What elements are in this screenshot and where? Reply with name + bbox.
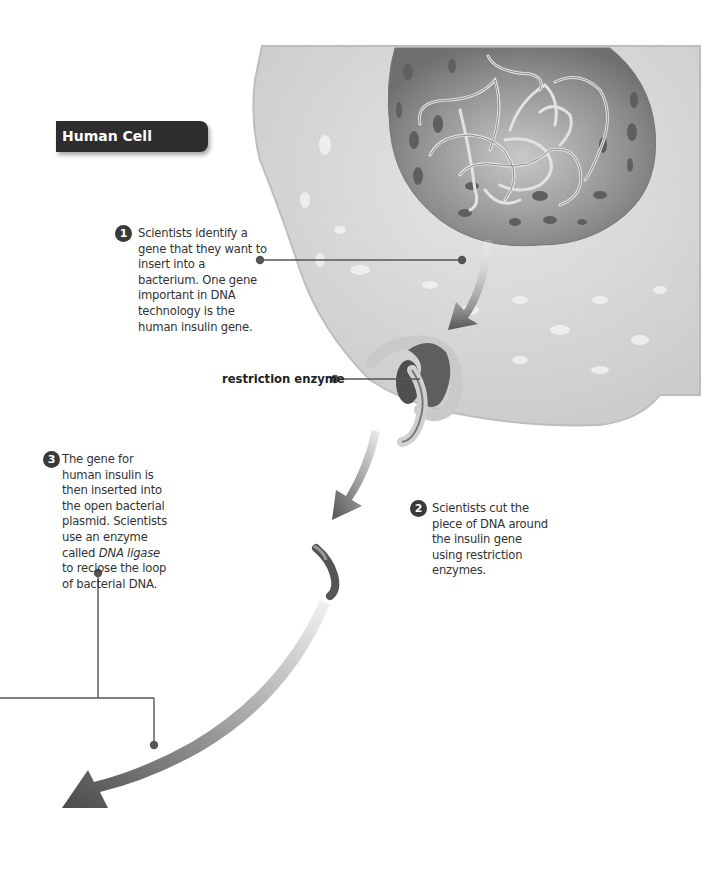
step-2-badge: 2 xyxy=(410,500,427,517)
step-3-text: The gene for human insulin is then inser… xyxy=(62,452,174,592)
step-3-text-italic: DNA ligase xyxy=(99,546,160,560)
step-3-text-after: to reclose the loop of bacterial DNA. xyxy=(62,561,166,591)
restriction-enzyme-label: restriction enzyme xyxy=(222,372,345,386)
step-2-text: Scientists cut the piece of DNA around t… xyxy=(432,501,552,579)
step-3-badge: 3 xyxy=(43,451,60,468)
dna-fragment-illustration xyxy=(314,546,335,596)
step-3-text-before: The gene for human insulin is then inser… xyxy=(62,452,167,560)
step-1-badge: 1 xyxy=(115,225,132,242)
step-1-text: Scientists identify a gene that they wan… xyxy=(138,226,268,335)
arrow-enzyme-to-fragment xyxy=(332,430,380,520)
human-cell-title: Human Cell xyxy=(56,121,208,152)
arrow-fragment-to-plasmid xyxy=(62,600,330,808)
